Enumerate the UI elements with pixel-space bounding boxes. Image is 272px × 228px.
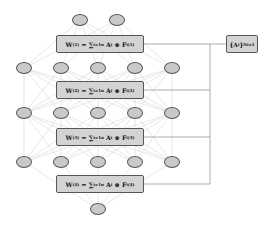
node-l2-0 [16, 107, 32, 119]
node-l3-3 [127, 156, 143, 168]
node-l4-0 [90, 203, 106, 215]
node-l2-3 [127, 107, 143, 119]
node-l1-3 [127, 62, 143, 74]
node-l0-0 [72, 14, 88, 26]
node-l2-4 [164, 107, 180, 119]
node-l1-2 [90, 62, 106, 74]
weight-box-4: W(4) = ∑i=1n Ai ⊗ Fi(4) [56, 175, 144, 193]
node-l0-1 [109, 14, 125, 26]
weight-box-3: W(3) = ∑i=1n Ai ⊗ Fi(3) [56, 128, 144, 146]
node-l3-2 [90, 156, 106, 168]
weight-box-1: W(1) = ∑i=1n Ai ⊗ Fi(1) [56, 35, 144, 53]
weight-box-2: W(2) = ∑i=1n Ai ⊗ Fi(2) [56, 81, 144, 99]
node-l1-4 [164, 62, 180, 74]
node-l2-2 [90, 107, 106, 119]
shared-factors-box: {Ai}Ni=1 [226, 35, 258, 53]
node-l1-1 [53, 62, 69, 74]
node-l3-0 [16, 156, 32, 168]
node-l2-1 [53, 107, 69, 119]
node-l3-1 [53, 156, 69, 168]
node-l3-4 [164, 156, 180, 168]
node-l1-0 [16, 62, 32, 74]
